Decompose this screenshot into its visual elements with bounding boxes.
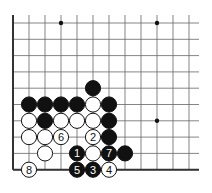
white-stone — [21, 113, 36, 128]
move-number: 7 — [106, 147, 112, 159]
black-stone — [21, 97, 36, 112]
black-stone — [37, 97, 52, 112]
black-stone — [37, 113, 52, 128]
white-stone — [53, 113, 68, 128]
black-stone — [101, 97, 116, 112]
white-stone — [85, 146, 100, 161]
move-number: 1 — [74, 147, 80, 159]
move-number: 8 — [26, 164, 32, 176]
black-stone — [101, 113, 116, 128]
white-stone — [37, 130, 52, 145]
star-point — [155, 21, 159, 25]
white-stone — [69, 113, 84, 128]
go-board-diagram: 62178534 — [0, 0, 212, 193]
black-stone — [85, 81, 100, 96]
white-stone — [21, 130, 36, 145]
white-stone — [85, 113, 100, 128]
move-number: 3 — [90, 164, 96, 176]
star-point — [59, 21, 63, 25]
move-number: 6 — [58, 131, 64, 143]
move-number: 2 — [90, 131, 96, 143]
black-stone — [53, 97, 68, 112]
move-number: 4 — [106, 164, 112, 176]
white-stone — [37, 146, 52, 161]
move-number: 5 — [74, 164, 80, 176]
white-stone — [85, 97, 100, 112]
black-stone — [117, 146, 132, 161]
black-stone — [69, 97, 84, 112]
black-stone — [101, 130, 116, 145]
star-point — [155, 119, 159, 123]
